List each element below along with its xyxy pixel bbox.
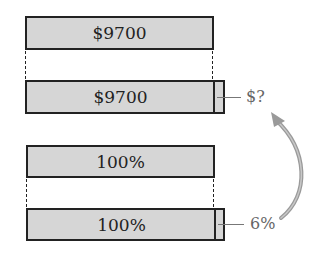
curved-arrow-icon bbox=[0, 0, 320, 254]
